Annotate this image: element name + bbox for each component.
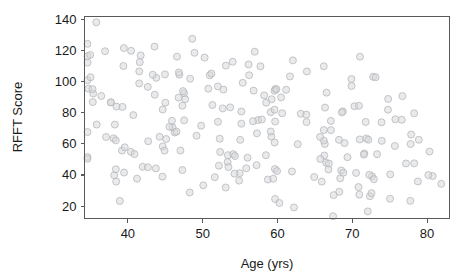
data-point: [398, 116, 405, 123]
data-point: [399, 93, 406, 100]
plot-canvas: 20406080100120140 4050607080 Age (yrs) R…: [0, 0, 468, 277]
data-point: [278, 94, 285, 101]
data-point: [407, 197, 414, 204]
data-point: [102, 48, 109, 55]
data-point: [209, 102, 216, 109]
data-point: [232, 153, 239, 160]
data-point: [364, 208, 371, 215]
data-point: [250, 87, 257, 94]
data-point: [303, 111, 310, 118]
data-point: [323, 89, 330, 96]
data-point: [182, 96, 189, 103]
data-point: [144, 164, 151, 171]
data-point: [348, 82, 355, 89]
y-axis-title: RFFT Score: [10, 82, 25, 153]
data-point: [131, 151, 138, 158]
data-point: [362, 118, 369, 125]
data-point: [320, 127, 327, 134]
data-point: [120, 45, 127, 52]
data-point: [272, 118, 279, 125]
data-point: [263, 99, 270, 106]
data-point: [327, 127, 334, 134]
data-point: [317, 133, 324, 140]
data-point: [360, 151, 367, 158]
data-point: [159, 106, 166, 113]
y-tick-label: 60: [62, 136, 76, 151]
scatter-plot-figure: 20406080100120140 4050607080 Age (yrs) R…: [0, 0, 468, 277]
data-point: [251, 48, 258, 55]
data-point: [286, 73, 293, 80]
data-point: [327, 117, 334, 124]
data-point: [89, 99, 96, 106]
data-point: [198, 122, 205, 129]
data-point: [368, 190, 375, 197]
data-point: [225, 164, 232, 171]
data-point: [253, 130, 260, 137]
data-point: [303, 68, 310, 75]
data-point: [112, 137, 119, 144]
data-point: [322, 104, 329, 111]
data-point: [355, 184, 362, 191]
data-point: [238, 120, 245, 127]
data-point: [189, 35, 196, 42]
data-point: [186, 189, 193, 196]
data-point: [311, 174, 318, 181]
data-point: [137, 52, 144, 59]
data-point: [279, 110, 286, 117]
data-point: [179, 102, 186, 109]
data-point: [391, 143, 398, 150]
data-point: [330, 192, 337, 199]
x-axis-ticks: 4050607080: [121, 219, 435, 241]
data-point: [159, 173, 166, 180]
data-point: [243, 165, 250, 172]
data-point: [408, 131, 415, 138]
data-point: [187, 75, 194, 82]
data-point: [121, 144, 128, 151]
data-point: [217, 148, 224, 155]
data-point: [370, 176, 377, 183]
data-point: [231, 170, 238, 177]
data-point: [134, 175, 141, 182]
data-point: [318, 178, 325, 185]
data-point: [222, 62, 229, 69]
data-point: [121, 169, 128, 176]
data-point: [113, 103, 120, 110]
data-point: [236, 177, 243, 184]
data-point: [205, 85, 212, 92]
data-point: [161, 147, 168, 154]
y-tick-label: 40: [62, 167, 76, 182]
data-point: [411, 110, 418, 117]
data-point: [191, 49, 198, 56]
y-tick-label: 100: [55, 74, 77, 89]
data-point: [175, 69, 182, 76]
data-point: [387, 195, 394, 202]
data-point: [149, 71, 156, 78]
data-points-layer: [84, 19, 445, 220]
x-tick-label: 50: [195, 226, 209, 241]
data-point: [200, 182, 207, 189]
data-point: [426, 148, 433, 155]
data-point: [161, 71, 168, 78]
data-point: [356, 53, 363, 60]
data-point: [152, 165, 159, 172]
data-point: [338, 109, 345, 116]
data-point: [244, 154, 251, 161]
data-point: [261, 92, 268, 99]
y-tick-label: 20: [62, 199, 76, 214]
data-point: [384, 106, 391, 113]
data-point: [162, 99, 169, 106]
data-point: [283, 86, 290, 93]
data-point: [220, 86, 227, 93]
data-point: [113, 178, 120, 185]
data-point: [239, 79, 246, 86]
data-point: [353, 169, 360, 176]
data-point: [262, 152, 269, 159]
data-point: [87, 74, 94, 81]
data-point: [387, 171, 394, 178]
x-tick-label: 40: [121, 226, 135, 241]
y-tick-label: 80: [62, 105, 76, 120]
data-point: [249, 118, 256, 125]
data-point: [246, 72, 253, 79]
data-point: [227, 104, 234, 111]
data-point: [374, 151, 381, 158]
